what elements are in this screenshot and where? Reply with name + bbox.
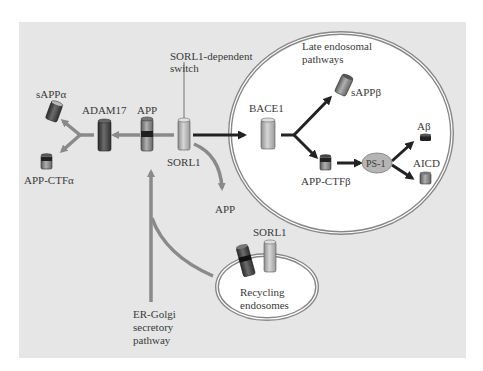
label-ps1: PS-1 <box>366 158 385 169</box>
label-sorl1-switch-line1: SORL1-dependent <box>170 50 252 62</box>
label-recycling-line1: Recycling <box>240 286 285 298</box>
adam17-cylinder <box>98 119 111 151</box>
sappa-cylinder <box>45 100 63 123</box>
label-late-endosomal-line2: pathways <box>302 53 344 65</box>
label-app-released: APP <box>215 203 235 215</box>
label-abeta: Aβ <box>417 120 431 132</box>
label-er-golgi-line2: secretory <box>133 321 174 333</box>
label-app-ctfb: APP-CTFβ <box>301 175 351 187</box>
label-sappb: sAPPβ <box>351 86 381 98</box>
label-recycling-line2: endosomes <box>240 299 289 311</box>
app-ctfb-cylinder <box>320 154 331 170</box>
sorl1-cylinder <box>178 118 190 150</box>
label-recycling-sorl1: SORL1 <box>253 226 287 238</box>
label-sappa: sAPPα <box>36 88 66 100</box>
bace1-cylinder <box>261 118 275 149</box>
sorl1-app-processing-diagram: sAPPα ADAM17 APP SORL1-dependent switch … <box>0 0 483 371</box>
recycling-sorl1-cylinder <box>264 240 276 272</box>
app-cylinder <box>141 117 153 151</box>
label-app: APP <box>137 104 157 116</box>
label-adam17: ADAM17 <box>82 104 127 116</box>
label-late-endosomal-line1: Late endosomal <box>302 40 372 52</box>
app-ctfa-cylinder <box>41 153 52 169</box>
label-bace1: BACE1 <box>249 102 284 114</box>
label-er-golgi-line1: ER-Golgi <box>133 308 176 320</box>
aicd-cylinder <box>420 172 431 185</box>
label-er-golgi-line3: pathway <box>133 334 171 346</box>
label-sorl1: SORL1 <box>167 156 201 168</box>
label-sorl1-switch-line2: switch <box>170 62 199 74</box>
label-aicd: AICD <box>413 157 440 169</box>
label-app-ctfa: APP-CTFα <box>24 174 74 186</box>
abeta-cylinder <box>420 134 431 142</box>
